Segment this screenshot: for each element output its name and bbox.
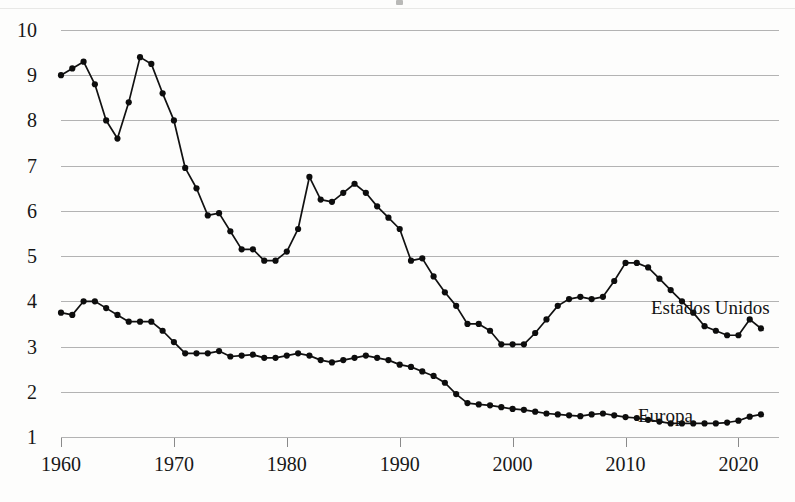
data-point <box>510 406 516 412</box>
x-axis-tick-mark <box>513 438 514 447</box>
data-point <box>318 196 324 202</box>
y-axis-tick-label: 7 <box>0 156 37 176</box>
data-point <box>385 215 391 221</box>
x-axis-tick-mark <box>738 438 739 447</box>
data-point <box>487 402 493 408</box>
data-point <box>363 353 369 359</box>
data-point <box>611 412 617 418</box>
data-point <box>713 420 719 426</box>
data-point <box>566 412 572 418</box>
data-point <box>487 328 493 334</box>
data-point <box>600 294 606 300</box>
data-point <box>419 368 425 374</box>
data-point <box>408 258 414 264</box>
data-point <box>272 355 278 361</box>
data-point <box>160 90 166 96</box>
data-point <box>171 117 177 123</box>
data-point <box>622 414 628 420</box>
data-point <box>408 364 414 370</box>
x-axis-tick-mark <box>61 438 62 447</box>
data-point <box>284 248 290 254</box>
x-axis-tick-mark <box>174 438 175 447</box>
data-point <box>577 413 583 419</box>
data-point <box>58 310 64 316</box>
x-axis-tick-label: 1970 <box>129 453 219 475</box>
x-axis-tick-label: 2000 <box>468 453 558 475</box>
data-point <box>464 400 470 406</box>
y-axis-tick-label: 9 <box>0 65 37 85</box>
x-axis-tick-label: 1990 <box>355 453 445 475</box>
scan-speck-artifact <box>396 0 403 5</box>
data-point <box>171 339 177 345</box>
data-point <box>521 407 527 413</box>
data-point <box>555 411 561 417</box>
data-point <box>645 264 651 270</box>
data-point <box>724 419 730 425</box>
data-point <box>758 411 764 417</box>
data-point <box>329 359 335 365</box>
data-point <box>600 410 606 416</box>
data-point <box>239 246 245 252</box>
data-point <box>103 117 109 123</box>
data-point <box>351 355 357 361</box>
gridline <box>61 437 779 438</box>
data-point <box>464 321 470 327</box>
data-point <box>747 414 753 420</box>
data-point <box>521 341 527 347</box>
data-point <box>318 357 324 363</box>
series-plot <box>61 30 779 437</box>
scan-edge-artifact <box>0 8 795 9</box>
data-point <box>363 190 369 196</box>
data-point <box>453 303 459 309</box>
data-point <box>137 54 143 60</box>
data-point <box>227 228 233 234</box>
data-point <box>216 210 222 216</box>
data-point <box>430 373 436 379</box>
data-point <box>193 185 199 191</box>
data-point <box>532 330 538 336</box>
x-axis-tick-label: 2010 <box>581 453 671 475</box>
data-point <box>634 260 640 266</box>
data-point <box>205 212 211 218</box>
y-axis-tick-label: 2 <box>0 382 37 402</box>
data-point <box>126 99 132 105</box>
data-point <box>543 316 549 322</box>
data-point <box>476 321 482 327</box>
x-axis-tick-label: 1980 <box>242 453 332 475</box>
data-point <box>272 258 278 264</box>
x-axis-tick-label: 1960 <box>16 453 106 475</box>
data-point <box>160 328 166 334</box>
data-point <box>216 348 222 354</box>
data-point <box>713 328 719 334</box>
data-point <box>724 332 730 338</box>
x-axis-tick-mark <box>626 438 627 447</box>
data-point <box>114 135 120 141</box>
data-point <box>476 401 482 407</box>
data-point <box>126 319 132 325</box>
data-point <box>92 81 98 87</box>
data-point <box>385 357 391 363</box>
data-point <box>295 226 301 232</box>
data-point <box>148 319 154 325</box>
data-point <box>543 410 549 416</box>
data-point <box>306 174 312 180</box>
data-point <box>701 323 707 329</box>
data-point <box>577 294 583 300</box>
birth-rate-line-chart: 10987654321 1960197019801990200020102020… <box>0 0 795 502</box>
series-label-estados-unidos: Estados Unidos <box>651 297 770 318</box>
data-point <box>498 341 504 347</box>
data-point <box>114 312 120 318</box>
x-axis-tick-mark <box>287 438 288 447</box>
data-point <box>419 255 425 261</box>
data-point <box>510 341 516 347</box>
data-point <box>340 190 346 196</box>
y-axis-tick-label: 4 <box>0 291 37 311</box>
data-point <box>351 181 357 187</box>
data-point <box>295 350 301 356</box>
data-point <box>148 61 154 67</box>
data-point <box>532 409 538 415</box>
data-point <box>611 278 617 284</box>
data-point <box>80 298 86 304</box>
data-point <box>137 319 143 325</box>
data-point <box>668 287 674 293</box>
